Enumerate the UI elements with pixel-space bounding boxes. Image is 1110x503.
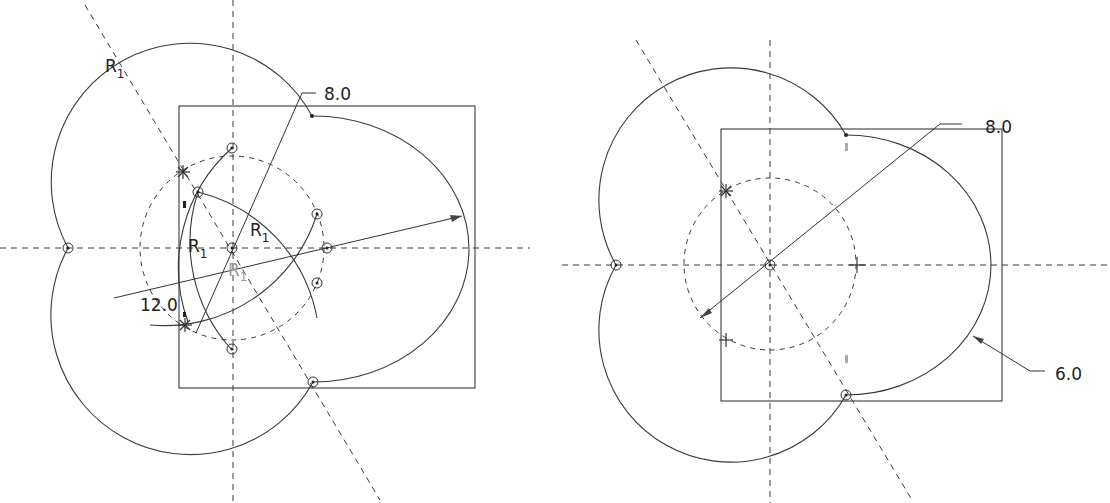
dim-label-6[interactable]: 6.0 xyxy=(1055,364,1082,384)
radius-label-faint[interactable]: R1 xyxy=(228,260,247,284)
right-sketch: 8.0 6.0 xyxy=(562,40,1110,503)
lower-left-arc[interactable] xyxy=(599,265,846,462)
dim-line-12[interactable] xyxy=(114,216,462,298)
diagonal-centerline xyxy=(636,40,912,500)
upper-left-arc[interactable] xyxy=(51,43,312,248)
right-arc[interactable] xyxy=(313,116,469,382)
dim-line-8[interactable] xyxy=(196,93,302,333)
dim-label-8[interactable]: 8.0 xyxy=(324,84,351,104)
arrowhead-icon xyxy=(973,336,984,344)
radius-label-top[interactable]: R1 xyxy=(105,56,124,81)
inner-arc-c[interactable] xyxy=(178,148,232,322)
constraint-points xyxy=(611,133,866,400)
dim-label-8[interactable]: 8.0 xyxy=(985,117,1012,137)
dim-label-12[interactable]: 12.0 xyxy=(140,295,178,315)
dim-line-8[interactable] xyxy=(700,124,940,318)
arrowhead-icon xyxy=(450,215,462,222)
sketch-canvas: 8.0 12.0 R1 R1 R1 R1 xyxy=(0,0,1110,503)
lower-left-arc[interactable] xyxy=(51,248,313,455)
star-marker-icon[interactable] xyxy=(178,318,192,332)
cross-marker-icon[interactable] xyxy=(849,257,866,273)
star-marker-icon[interactable] xyxy=(176,165,190,179)
left-sketch: 8.0 12.0 R1 R1 R1 R1 xyxy=(0,0,530,503)
inner-arc-a[interactable] xyxy=(198,192,317,318)
radius-label-center-right[interactable]: R1 xyxy=(250,220,269,245)
upper-left-arc[interactable] xyxy=(599,68,846,265)
star-marker-icon[interactable] xyxy=(719,184,733,198)
